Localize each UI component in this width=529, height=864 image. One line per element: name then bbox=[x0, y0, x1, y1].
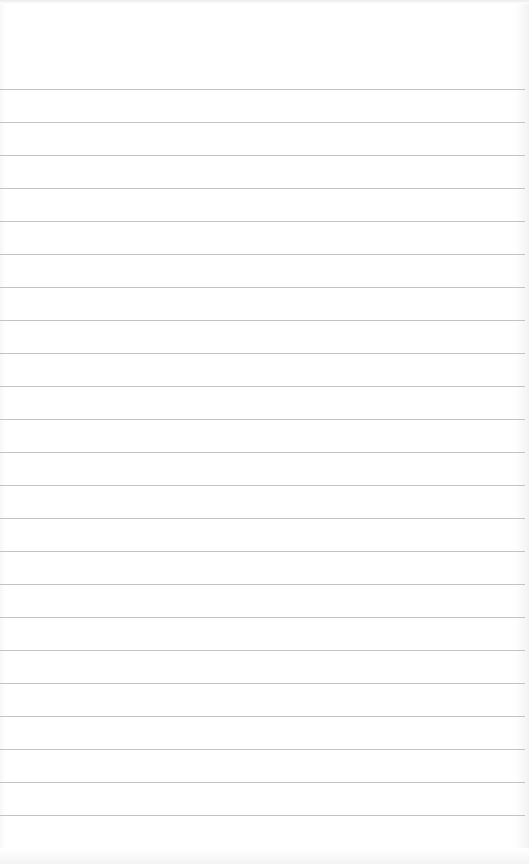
ruled-line bbox=[0, 122, 525, 123]
ruled-line bbox=[0, 617, 525, 618]
ruled-line bbox=[0, 584, 525, 585]
ruled-line bbox=[0, 254, 525, 255]
ruled-line bbox=[0, 221, 525, 222]
ruled-line bbox=[0, 716, 525, 717]
ruled-line bbox=[0, 353, 525, 354]
paper-bottom-edge bbox=[0, 848, 529, 864]
ruled-line bbox=[0, 320, 525, 321]
ruled-line bbox=[0, 650, 525, 651]
lined-paper bbox=[0, 0, 529, 864]
ruled-line bbox=[0, 683, 525, 684]
ruled-line bbox=[0, 749, 525, 750]
ruled-line bbox=[0, 287, 525, 288]
ruled-line bbox=[0, 452, 525, 453]
ruled-line bbox=[0, 551, 525, 552]
ruled-line bbox=[0, 89, 525, 90]
ruled-line bbox=[0, 419, 525, 420]
ruled-line bbox=[0, 155, 525, 156]
ruled-line bbox=[0, 485, 525, 486]
ruled-line bbox=[0, 815, 525, 816]
paper-top-edge bbox=[0, 0, 529, 4]
ruled-line bbox=[0, 188, 525, 189]
ruled-line bbox=[0, 386, 525, 387]
ruled-line bbox=[0, 782, 525, 783]
ruled-line bbox=[0, 518, 525, 519]
